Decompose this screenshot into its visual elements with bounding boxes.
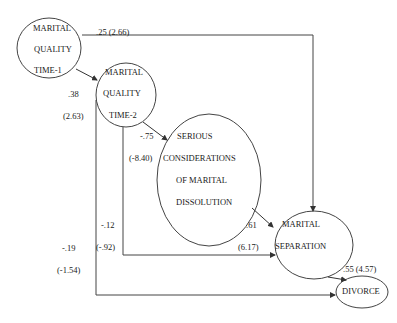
- tvalue-mq1-to-mq2: (2.63): [63, 112, 84, 121]
- tvalue-mq2-to-divorce: (-1.54): [57, 266, 80, 275]
- label-mq1-line2: QUALITY: [34, 45, 72, 54]
- coef-mq2-to-divorce: -.19: [62, 244, 75, 253]
- label-mq2-line3: TIME-2: [109, 111, 137, 120]
- label-mq2-line1: MARITAL: [105, 68, 143, 77]
- label-scmd-line2: CONSIDERATIONS: [163, 154, 236, 163]
- label-mq1-line3: TIME-1: [34, 66, 62, 75]
- coef-mq1-to-separation: .25 (2.66): [96, 28, 129, 37]
- coef-mq2-to-separation: -.12: [101, 221, 114, 230]
- label-scmd-line1: SERIOUS: [177, 132, 212, 141]
- path-mq1-to-mq2: [76, 69, 97, 80]
- label-divorce: DIVORCE: [342, 287, 380, 296]
- coef-considerations-to-separation: .61: [246, 221, 257, 230]
- label-sep-line2: SEPARATION: [275, 242, 326, 251]
- label-scmd-line4: DISSOLUTION: [176, 198, 232, 207]
- coef-mq2-to-considerations: -.75: [140, 132, 153, 141]
- coef-separation-to-divorce: .55 (4.57): [343, 265, 376, 274]
- tvalue-considerations-to-separation: (6.17): [238, 243, 259, 252]
- label-sep-line1: MARITAL: [282, 220, 320, 229]
- path-mq2-to-separation: [123, 127, 275, 255]
- tvalue-mq2-to-separation: (-.92): [96, 243, 115, 252]
- label-mq1-line1: MARITAL: [33, 24, 71, 33]
- label-mq2-line2: QUALITY: [103, 89, 141, 98]
- coef-mq1-to-mq2: .38: [68, 90, 79, 99]
- tvalue-mq2-to-considerations: (-8.40): [129, 154, 152, 163]
- path-separation-to-divorce: [328, 277, 346, 280]
- label-scmd-line3: OF MARITAL: [176, 176, 227, 185]
